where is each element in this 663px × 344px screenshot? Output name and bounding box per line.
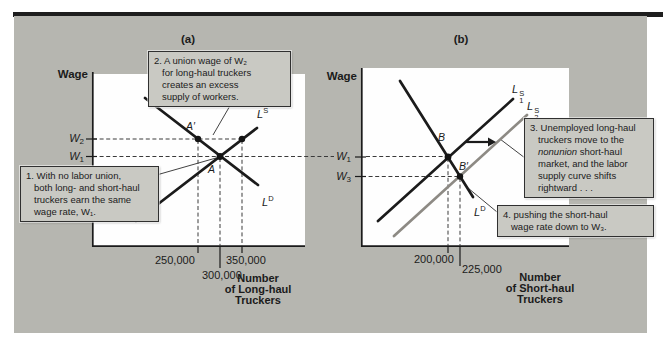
callout-4: 4. pushing the short-haul wage rate down…: [497, 205, 654, 237]
point-a-label: A: [208, 163, 215, 175]
supply-curve-label-a: LS: [257, 106, 268, 120]
panel-b-wage-axis-label: Wage: [317, 70, 357, 82]
callout-1: 1. With no labor union, both long- and s…: [20, 166, 159, 222]
xtick-200000: 200,000: [414, 253, 454, 265]
panel-a-wage-axis-label: Wage: [48, 68, 88, 80]
point-a-prime-label: A′: [186, 120, 195, 132]
demand-curve-label-a: LD: [262, 194, 274, 208]
callout-3: 3. Unemployed long-haul truckers move to…: [524, 118, 654, 198]
panel-b-x-axis-title: Number of Short-haul Truckers: [495, 272, 585, 305]
demand-curve-label-b: LD: [474, 204, 486, 218]
panel-b-title: (b): [431, 33, 491, 45]
point-b-label: B: [438, 131, 445, 143]
w2-tick-label-a: W2: [56, 132, 84, 146]
w1-tick-label-a: W1: [56, 150, 84, 164]
callout-2: 2. A union wage of W₂ for long-haul truc…: [148, 51, 291, 107]
panel-a-x-axis-title: Number of Long-haul Truckers: [213, 273, 303, 306]
figure-page: (a) (b) Wage Wage W2 W1 W1 W3 LS LD LS1 …: [0, 0, 663, 344]
point-b-prime-label: B′: [459, 160, 468, 172]
w1-tick-label-b: W1: [327, 150, 351, 164]
panel-a-title: (a): [158, 33, 218, 45]
xtick-250000: 250,000: [155, 254, 195, 266]
w3-tick-label-b: W3: [327, 170, 351, 184]
xtick-350000: 350,000: [226, 254, 266, 266]
supply-curve-1-label-b: LS1: [512, 83, 524, 104]
